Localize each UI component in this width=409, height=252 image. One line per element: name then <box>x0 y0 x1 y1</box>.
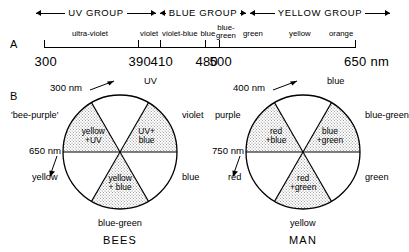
tick-300 <box>44 40 45 48</box>
arrow-left-icon <box>36 10 41 16</box>
band-label-blue: blue <box>201 30 216 38</box>
sector-red-plus-blue: red+blue <box>266 127 287 146</box>
group-label: UV GROUP <box>65 8 126 18</box>
band-label-blue-green: blue-green <box>216 24 236 40</box>
colour-wheel-bees <box>62 94 178 210</box>
tick-650 <box>355 40 356 48</box>
group-label: YELLOW GROUP <box>275 8 365 18</box>
arrow-left-icon <box>250 10 255 16</box>
wheel-bees-left-arrow-icon <box>46 156 70 182</box>
wheel-man-top-arrow-icon <box>271 78 331 108</box>
tick-390 <box>138 40 139 48</box>
wheel-man-left-arrow-icon <box>229 156 253 182</box>
wheel-man-nm-750: 750 nm <box>212 145 244 156</box>
tick-650-value: 650 nm <box>344 54 389 69</box>
tick-410-value: 410 <box>151 54 174 69</box>
arrow-left-icon <box>160 10 165 16</box>
panel-b-label: B <box>10 90 18 102</box>
band-label-violet: violet <box>140 30 158 38</box>
wheel-title-bees: BEES <box>103 234 137 246</box>
wheel-man-label-blue-green: blue-green <box>365 110 409 120</box>
colour-wheel-man <box>245 94 361 210</box>
wheel-man-label-yellow: yellow <box>290 218 316 228</box>
panel-a-label: A <box>10 38 18 50</box>
group-bar-blue-group: BLUE GROUP <box>160 6 246 20</box>
band-label-violet-blue: violet-blue <box>162 30 198 38</box>
wheel-bees-label-violet: violet <box>182 110 203 120</box>
wheel-bees-label-bee-purple: 'bee-purple' <box>11 110 58 120</box>
sector-red-plus-green: red+green <box>290 174 316 193</box>
sector-yellow-plus-uv: yellow+UV <box>82 127 105 146</box>
arrow-right-icon <box>241 10 246 16</box>
wheel-bees-top-arrow-icon <box>88 78 148 108</box>
wheel-man-label-purple: purple <box>215 110 241 120</box>
tick-410 <box>160 40 161 48</box>
sector-uv-plus-blue: UV+blue <box>138 127 155 146</box>
band-label-green: green <box>243 30 263 38</box>
group-bar-uv-group: UV GROUP <box>36 6 156 20</box>
spectrum-axis-line <box>44 47 355 48</box>
wheel-title-man: MAN <box>289 234 317 246</box>
band-label-orange: orange <box>329 30 353 38</box>
tick-500-value: 500 <box>210 54 233 69</box>
wheel-bees-nm-650: 650 nm <box>29 145 61 156</box>
tick-500 <box>219 40 220 48</box>
group-label: BLUE GROUP <box>166 8 240 18</box>
band-label-ultra-violet: ultra-violet <box>72 30 108 38</box>
sector-blue-plus-green: blue+green <box>317 127 343 146</box>
spectrum-group-bars: UV GROUPBLUE GROUPYELLOW GROUP <box>0 6 397 22</box>
group-bar-yellow-group: YELLOW GROUP <box>250 6 390 20</box>
tick-300-value: 300 <box>35 54 58 69</box>
tick-390-value: 390 <box>129 54 152 69</box>
arrow-right-icon <box>151 10 156 16</box>
band-label-yellow: yellow <box>289 30 311 38</box>
tick-480 <box>205 40 206 48</box>
arrow-right-icon <box>385 10 390 16</box>
sector-yellow-plus-blue: yellow+ blue <box>109 174 132 193</box>
wheel-bees-label-blue-green: blue-green <box>98 218 142 228</box>
wheel-man-label-green: green <box>365 172 389 182</box>
wheel-bees-nm-300: 300 nm <box>50 82 82 93</box>
wheel-bees-label-blue: blue <box>182 172 199 182</box>
wheel-man-nm-400: 400 nm <box>233 82 265 93</box>
